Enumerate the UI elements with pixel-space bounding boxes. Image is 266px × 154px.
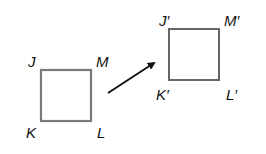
label-K-prime: K′ bbox=[156, 86, 170, 103]
label-J: J bbox=[27, 53, 36, 70]
original-square bbox=[41, 70, 91, 121]
translation-arrow bbox=[108, 63, 154, 93]
translation-diagram: J M K L J′ M′ K′ L′ bbox=[0, 0, 266, 154]
label-L-prime: L′ bbox=[226, 86, 238, 103]
label-L: L bbox=[97, 124, 105, 141]
label-J-prime: J′ bbox=[158, 12, 171, 29]
label-M-prime: M′ bbox=[224, 12, 240, 29]
label-K: K bbox=[26, 124, 37, 141]
image-square bbox=[169, 29, 219, 80]
label-M: M bbox=[96, 53, 109, 70]
